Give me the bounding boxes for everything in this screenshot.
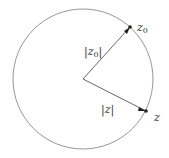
radius-to-z	[83, 79, 146, 111]
label-abs-z0: |z0|	[84, 45, 102, 59]
point-z	[144, 109, 148, 113]
diagram-canvas: z0 z |z0| |z|	[0, 0, 169, 158]
label-z: z	[153, 111, 160, 124]
label-z0: z0	[136, 21, 148, 35]
label-abs-z: |z|	[101, 103, 114, 117]
point-z0	[128, 25, 132, 29]
